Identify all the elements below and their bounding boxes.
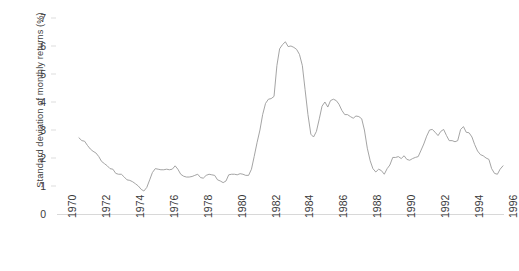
x-axis-tick-1996: 1996 bbox=[507, 195, 519, 218]
y-axis-tickmark-7 bbox=[51, 18, 56, 19]
x-axis-tick-1976: 1976 bbox=[168, 195, 180, 218]
x-axis-tick-1982: 1982 bbox=[270, 195, 282, 218]
x-axis-tick-1972: 1972 bbox=[100, 195, 112, 218]
y-axis-tickmark-6 bbox=[51, 46, 56, 47]
x-axis-tick-1992: 1992 bbox=[439, 195, 451, 218]
x-axis-tick-1978: 1978 bbox=[202, 195, 214, 218]
y-axis-tickmark-2 bbox=[51, 158, 56, 159]
x-axis-tick-1994: 1994 bbox=[473, 195, 485, 218]
data-series-line bbox=[79, 42, 503, 191]
x-axis-tick-1980: 1980 bbox=[236, 195, 248, 218]
y-axis-tickmark-5 bbox=[51, 74, 56, 75]
x-axis-tick-1986: 1986 bbox=[337, 195, 349, 218]
x-axis-tick-1988: 1988 bbox=[371, 195, 383, 218]
x-axis-tick-1970: 1970 bbox=[66, 195, 78, 218]
x-axis-tick-1984: 1984 bbox=[303, 195, 315, 218]
y-axis-tickmark-1 bbox=[51, 186, 56, 187]
y-axis-tickmark-3 bbox=[51, 130, 56, 131]
x-axis-tick-1974: 1974 bbox=[134, 195, 146, 218]
y-axis-tickmark-4 bbox=[51, 102, 56, 103]
x-axis-tick-1990: 1990 bbox=[405, 195, 417, 218]
